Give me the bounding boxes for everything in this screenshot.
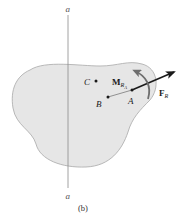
axis-label-top: a — [66, 4, 71, 14]
force-label: FR — [159, 88, 169, 99]
point-c-dot — [95, 80, 98, 83]
point-c-label: C — [84, 77, 91, 87]
point-b-label: B — [96, 99, 102, 109]
point-b-dot — [107, 96, 110, 99]
axis-label-bottom: a — [66, 191, 71, 201]
point-a-dot — [131, 89, 134, 92]
figure-caption: (b) — [78, 203, 88, 213]
point-a-label: A — [127, 96, 134, 106]
rigid-body-diagram: a a C B A MRA FR (b) — [0, 0, 186, 217]
